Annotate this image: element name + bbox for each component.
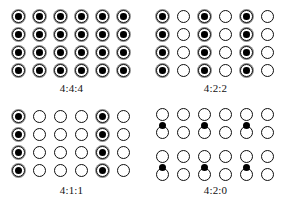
- chroma-sample-empty: [240, 150, 253, 163]
- chroma-sample-empty: [117, 164, 130, 177]
- chroma-sample-filled: [75, 28, 88, 41]
- chroma-sample-filled: [54, 46, 67, 59]
- chroma-sample-filled: [96, 28, 109, 41]
- chroma-sample-filled: [198, 10, 211, 23]
- chroma-sample-filled: [75, 46, 88, 59]
- chroma-sample-filled: [240, 10, 253, 23]
- chroma-sample-empty: [117, 146, 130, 159]
- chroma-sample-empty: [75, 110, 88, 123]
- chroma-sample-empty: [261, 46, 274, 59]
- chroma-sample-filled: [54, 28, 67, 41]
- interstitial-chroma-dot: [201, 122, 208, 129]
- chroma-sample-filled: [117, 10, 130, 23]
- chroma-sample-filled: [75, 64, 88, 77]
- chroma-sample-empty: [54, 146, 67, 159]
- chroma-sample-empty: [33, 146, 46, 159]
- chroma-sample-filled: [54, 10, 67, 23]
- chroma-sample-empty: [156, 150, 169, 163]
- interstitial-chroma-dot: [159, 122, 166, 129]
- chroma-sample-empty: [54, 110, 67, 123]
- interstitial-chroma-dot: [243, 122, 250, 129]
- chroma-sample-filled: [96, 10, 109, 23]
- chroma-sample-filled: [240, 46, 253, 59]
- chroma-sample-filled: [96, 164, 109, 177]
- panel-411: 4:1:1: [0, 100, 143, 200]
- chroma-sample-empty: [261, 64, 274, 77]
- chroma-sample-empty: [75, 128, 88, 141]
- chroma-sample-filled: [198, 28, 211, 41]
- chroma-sample-empty: [156, 108, 169, 121]
- panel-label-444: 4:4:4: [0, 82, 143, 94]
- chroma-sample-filled: [12, 146, 25, 159]
- chroma-sample-filled: [240, 64, 253, 77]
- chroma-sample-filled: [96, 64, 109, 77]
- chroma-sample-empty: [117, 128, 130, 141]
- chroma-sample-empty: [177, 126, 190, 139]
- chroma-sample-filled: [12, 64, 25, 77]
- chroma-sample-filled: [156, 46, 169, 59]
- panel-label-411: 4:1:1: [0, 184, 143, 196]
- chroma-sample-empty: [33, 164, 46, 177]
- chroma-sample-empty: [261, 10, 274, 23]
- sample-grid-411: [0, 100, 143, 180]
- chroma-sample-empty: [219, 28, 232, 41]
- chroma-sample-filled: [96, 146, 109, 159]
- chroma-sample-filled: [12, 110, 25, 123]
- chroma-sample-empty: [261, 150, 274, 163]
- chroma-sample-filled: [33, 64, 46, 77]
- chroma-sample-filled: [96, 110, 109, 123]
- chroma-sample-empty: [177, 168, 190, 181]
- chroma-sample-empty: [54, 164, 67, 177]
- panel-444: 4:4:4: [0, 0, 143, 100]
- chroma-sample-filled: [96, 46, 109, 59]
- chroma-sample-filled: [240, 28, 253, 41]
- panel-422: 4:2:2: [144, 0, 287, 100]
- chroma-sample-filled: [12, 10, 25, 23]
- chroma-sample-empty: [261, 28, 274, 41]
- chroma-sample-empty: [261, 168, 274, 181]
- chroma-sample-empty: [75, 146, 88, 159]
- chroma-sample-filled: [12, 46, 25, 59]
- chroma-sample-empty: [117, 110, 130, 123]
- interstitial-chroma-dot: [243, 164, 250, 171]
- chroma-sample-filled: [117, 46, 130, 59]
- chroma-sample-filled: [12, 128, 25, 141]
- chroma-sample-filled: [117, 28, 130, 41]
- chroma-sample-filled: [117, 64, 130, 77]
- chroma-sample-empty: [177, 108, 190, 121]
- chroma-sample-empty: [33, 110, 46, 123]
- panel-label-420: 4:2:0: [144, 184, 287, 196]
- chroma-sample-filled: [75, 10, 88, 23]
- chroma-sample-empty: [219, 46, 232, 59]
- chroma-sample-empty: [261, 126, 274, 139]
- chroma-sample-filled: [156, 64, 169, 77]
- sample-grid-422: [144, 0, 287, 80]
- chroma-sample-empty: [240, 108, 253, 121]
- chroma-sample-empty: [219, 108, 232, 121]
- chroma-sample-filled: [33, 46, 46, 59]
- sample-grid-444: [0, 0, 143, 80]
- chroma-sample-empty: [219, 126, 232, 139]
- chroma-sample-filled: [12, 28, 25, 41]
- chroma-sample-filled: [156, 10, 169, 23]
- chroma-sample-filled: [33, 28, 46, 41]
- chroma-sample-empty: [198, 150, 211, 163]
- chroma-sample-empty: [75, 164, 88, 177]
- chroma-sample-empty: [261, 108, 274, 121]
- chroma-sample-empty: [219, 64, 232, 77]
- chroma-sample-empty: [219, 168, 232, 181]
- panel-420: 4:2:0: [144, 100, 287, 200]
- chroma-sample-filled: [54, 64, 67, 77]
- chroma-sample-empty: [177, 64, 190, 77]
- chroma-sample-empty: [54, 128, 67, 141]
- chroma-sample-empty: [177, 10, 190, 23]
- sample-grid-420: [144, 100, 287, 180]
- chroma-sample-filled: [198, 46, 211, 59]
- chroma-sample-filled: [198, 64, 211, 77]
- chroma-sample-empty: [177, 46, 190, 59]
- chroma-sample-empty: [33, 128, 46, 141]
- chroma-sample-empty: [219, 10, 232, 23]
- panel-label-422: 4:2:2: [144, 82, 287, 94]
- interstitial-chroma-dot: [201, 164, 208, 171]
- chroma-sample-empty: [198, 108, 211, 121]
